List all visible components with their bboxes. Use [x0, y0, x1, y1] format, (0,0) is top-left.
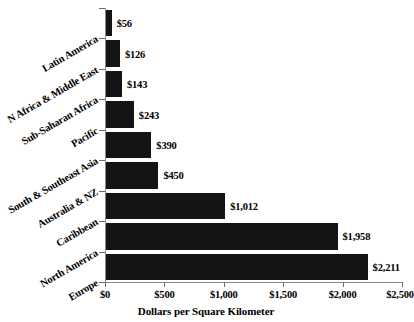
bar [105, 132, 151, 158]
x-axis-tick-label: $2,000 [329, 289, 357, 300]
bar [105, 101, 134, 127]
bar [105, 223, 338, 249]
plot-area: $56 $126 $143 $243 $390 $450 $1, [105, 8, 402, 282]
x-axis-tick [224, 282, 225, 287]
x-axis-tick [283, 282, 284, 287]
x-axis-title: Dollars per Square Kilometer [0, 305, 412, 317]
bar [105, 254, 368, 280]
x-axis-tick-label: $0 [100, 289, 110, 300]
bar-value-label: $1,958 [343, 231, 371, 242]
category-label: Caribbean [54, 216, 99, 249]
y-axis-tick [99, 38, 105, 39]
x-axis-tick [343, 282, 344, 287]
y-axis-tick [99, 191, 105, 192]
y-axis-tick [99, 221, 105, 222]
bar-row: $390 [105, 130, 402, 160]
category-label: Europe [67, 277, 100, 302]
y-axis-tick [99, 160, 105, 161]
bar-row: $56 [105, 8, 402, 38]
bar-row: $2,211 [105, 252, 402, 282]
bar-value-label: $390 [156, 139, 176, 150]
bar-value-label: $143 [127, 79, 147, 90]
x-axis-line [105, 282, 402, 283]
bar-value-label: $243 [139, 109, 159, 120]
bar-value-label: $126 [125, 48, 145, 59]
bar-row: $450 [105, 160, 402, 190]
bar-value-label: $450 [163, 170, 183, 181]
category-label: South & Southeast Asia [6, 155, 99, 215]
bar-value-label: $56 [117, 18, 132, 29]
x-axis-tick-label: $500 [154, 289, 174, 300]
bar-row: $126 [105, 38, 402, 68]
bar-value-label: $2,211 [373, 261, 400, 272]
y-axis-tick [99, 69, 105, 70]
x-axis-tick-label: $1,000 [210, 289, 238, 300]
x-axis-tick-label: $1,500 [269, 289, 297, 300]
bar-value-label: $1,012 [230, 200, 258, 211]
y-axis-tick [99, 252, 105, 253]
bar [105, 40, 120, 66]
y-axis-tick [99, 8, 105, 9]
category-label: Pacific [69, 125, 100, 149]
bar [105, 162, 158, 188]
bar-row: $143 [105, 69, 402, 99]
category-label: N Africa & Middle East [6, 64, 100, 125]
bar-row: $1,958 [105, 221, 402, 251]
x-axis-tick [402, 282, 403, 287]
x-axis-tick [164, 282, 165, 287]
y-axis-line [105, 8, 106, 282]
bar [105, 71, 122, 97]
x-axis-tick [105, 282, 106, 287]
bar-row: $1,012 [105, 191, 402, 221]
y-axis-tick [99, 130, 105, 131]
bar-row: $243 [105, 99, 402, 129]
bar [105, 193, 225, 219]
x-axis-tick-label: $2,500 [386, 289, 414, 300]
y-axis-tick [99, 99, 105, 100]
